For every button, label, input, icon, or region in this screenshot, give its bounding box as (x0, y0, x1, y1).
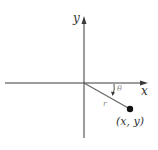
y-axis (82, 16, 87, 138)
y-axis-arrow-icon (82, 16, 87, 24)
y-axis-label: y (72, 11, 80, 25)
point-label: (x, y) (116, 115, 144, 128)
radius-label: r (103, 99, 108, 108)
polar-coordinates-diagram: y x θ r (x, y) (0, 0, 158, 150)
angle-arc (111, 84, 115, 96)
angle-label: θ (117, 84, 122, 93)
radius-ray (84, 83, 130, 109)
x-axis-label: x (141, 84, 148, 98)
x-axis (5, 81, 148, 86)
point-marker (127, 106, 133, 112)
angle-arrow-icon (111, 92, 115, 97)
